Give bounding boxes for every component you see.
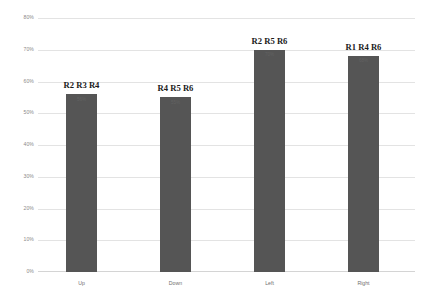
y-axis-tick-80: 80% <box>4 15 34 20</box>
bar-annotation-down: R4 R5 R6 <box>158 84 194 93</box>
y-axis-tick-40: 40% <box>4 142 34 147</box>
bar-annotation-right: R1 R4 R6 <box>346 43 382 52</box>
bar-value-up: 56% <box>77 98 86 103</box>
bar-up[interactable] <box>66 94 97 272</box>
bar-value-right: 68% <box>359 59 368 64</box>
bar-annotation-up: R2 R3 R4 <box>64 81 100 90</box>
y-axis-tick-20: 20% <box>4 206 34 211</box>
y-axis-tick-10: 10% <box>4 238 34 243</box>
y-axis-tick-0: 0% <box>4 269 34 274</box>
y-axis-tick-60: 60% <box>4 79 34 84</box>
bar-value-left: 70% <box>265 53 274 58</box>
bar-chart: 80% 70% 60% 50% 40% 30% 20% 10% 0% R2 R3… <box>0 0 425 303</box>
x-axis-label-down: Down <box>169 281 182 286</box>
plot-area <box>38 18 415 272</box>
y-axis-tick-50: 50% <box>4 111 34 116</box>
x-axis-label-left: Left <box>265 281 274 286</box>
bar-down[interactable] <box>160 97 191 272</box>
bar-right[interactable] <box>348 56 379 272</box>
gridline-80 <box>38 18 415 19</box>
y-axis-tick-30: 30% <box>4 174 34 179</box>
x-axis-label-right: Right <box>357 281 369 286</box>
bar-annotation-left: R2 R5 R6 <box>252 37 288 46</box>
y-axis-tick-70: 70% <box>4 47 34 52</box>
x-axis-label-up: Up <box>78 281 85 286</box>
bar-value-down: 55% <box>171 101 180 106</box>
bar-left[interactable] <box>254 50 285 272</box>
